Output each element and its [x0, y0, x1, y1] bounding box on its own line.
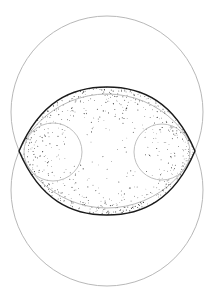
left-inner-circle — [24, 123, 82, 181]
overlapping-circles-diagram — [0, 0, 212, 302]
lens-stipple — [19, 87, 196, 216]
top-outer-circle — [11, 16, 203, 208]
bottom-outer-circle — [11, 94, 203, 286]
lens-outline — [19, 87, 195, 215]
right-inner-circle — [134, 124, 190, 180]
